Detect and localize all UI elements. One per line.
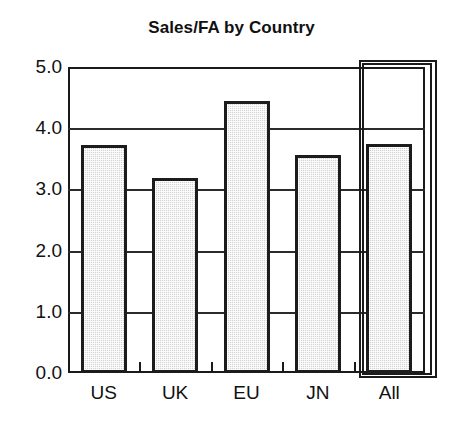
- y-tick-label: 1.0: [0, 302, 62, 321]
- chart-container: Sales/FA by Country 0.01.02.03.04.05.0 U…: [0, 0, 463, 423]
- x-tick-label-jn: JN: [282, 382, 353, 404]
- y-tick-label: 0.0: [0, 363, 62, 382]
- x-tick-label-eu: EU: [211, 382, 282, 404]
- x-tick-mark: [139, 362, 141, 373]
- x-axis-tick-labels: USUKEUJNAll: [68, 382, 425, 412]
- y-tick-label: 5.0: [0, 57, 62, 76]
- y-axis-tick-labels: 0.01.02.03.04.05.0: [0, 0, 62, 423]
- bar-eu: [224, 101, 270, 373]
- x-tick-label-all: All: [354, 382, 425, 404]
- all-highlight-box-inner: [362, 63, 432, 375]
- bar-uk: [152, 178, 198, 373]
- x-tick-label-us: US: [68, 382, 139, 404]
- x-tick-label-uk: UK: [139, 382, 210, 404]
- y-tick-label: 3.0: [0, 179, 62, 198]
- chart-title: Sales/FA by Country: [0, 18, 463, 38]
- x-tick-mark: [354, 362, 356, 373]
- y-tick-label: 2.0: [0, 241, 62, 260]
- x-tick-mark: [282, 362, 284, 373]
- x-tick-mark: [211, 362, 213, 373]
- y-tick-label: 4.0: [0, 118, 62, 137]
- bar-jn: [295, 155, 341, 373]
- bar-us: [81, 145, 127, 373]
